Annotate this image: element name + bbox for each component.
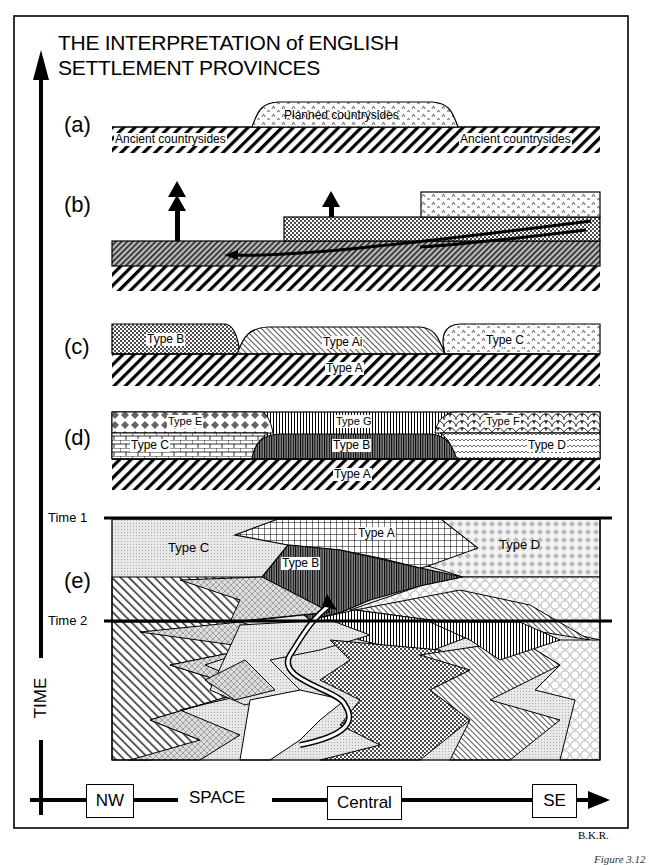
panel-e-label: (e) [64, 568, 91, 594]
credit-initials: B.K.R. [578, 829, 609, 841]
panel-c-type-ai: Type Ai [322, 336, 363, 349]
panel-d-type-d: Type D [527, 439, 567, 452]
title-line-2: SETTLEMENT PROVINCES [58, 55, 399, 80]
panel-d-type-f: Type F [485, 415, 521, 428]
time-1-label: Time 1 [48, 510, 87, 525]
panel-d-type-e: Type E [167, 415, 203, 428]
figure-title: THE INTERPRETATION of ENGLISH SETTLEMENT… [58, 30, 399, 80]
space-axis-label: SPACE [189, 788, 245, 808]
central-box: Central [327, 786, 402, 820]
se-box: SE [532, 784, 577, 818]
panel-a-label: (a) [64, 112, 91, 138]
nw-box: NW [86, 784, 134, 818]
panel-e-type-d: Type D [498, 538, 541, 551]
title-line-1: THE INTERPRETATION of ENGLISH [58, 30, 399, 55]
panel-d-label: (d) [64, 425, 91, 451]
panel-c-label: (c) [64, 334, 90, 360]
space-axis-arrowhead [588, 791, 610, 809]
panel-b-label: (b) [64, 192, 91, 218]
time-axis-label: TIME [31, 675, 51, 721]
panel-e-type-a: Type A [357, 527, 396, 540]
ancient-countrysides-left-label: Ancient countrysides [114, 133, 227, 146]
planned-countrysides-label: Planned countrysides [283, 109, 400, 122]
figure-caption: Figure 3.12 [594, 853, 646, 865]
panel-c-type-c: Type C [485, 334, 525, 347]
panel-e-type-c: Type C [167, 541, 210, 554]
panel-d-type-b: Type B [332, 439, 371, 452]
panel-d-type-a: Type A [333, 468, 372, 481]
time-2-label: Time 2 [48, 613, 87, 628]
panel-e-type-b: Type B [281, 557, 320, 570]
panel-d-type-c: Type C [130, 439, 170, 452]
panel-b [112, 181, 600, 291]
panel-c-type-b: Type B [146, 333, 185, 346]
time-axis-arrowhead [33, 50, 49, 80]
panel-d-type-g: Type G [335, 415, 372, 428]
panel-c-type-a: Type A [325, 362, 364, 375]
ancient-countrysides-right-label: Ancient countrysides [459, 133, 572, 146]
